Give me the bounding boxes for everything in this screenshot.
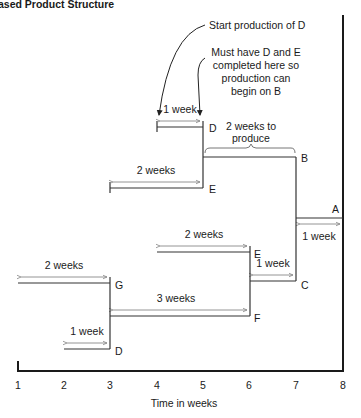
tick-3: 3	[107, 379, 113, 391]
tick-6: 6	[246, 379, 252, 391]
duration-d-top: 1 week	[163, 103, 197, 115]
label-c: C	[301, 279, 309, 291]
duration-a: 1 week	[302, 230, 336, 242]
label-d-bottom: D	[115, 345, 123, 357]
annotation-start-d: Start production of D	[209, 19, 306, 31]
annotation-produce: produce	[232, 132, 270, 144]
tick-5: 5	[200, 379, 206, 391]
time-phased-product-structure-diagram: ased Product Structure 1 2 3 4 5 6 7 8 T…	[0, 0, 361, 418]
label-e-mid: E	[254, 248, 261, 260]
duration-f: 3 weeks	[157, 292, 196, 304]
label-d-top: D	[209, 122, 217, 134]
page-title: ased Product Structure	[0, 0, 114, 10]
label-b: B	[301, 152, 308, 164]
arrow-must-have	[198, 58, 205, 115]
label-g: G	[115, 279, 123, 291]
brace-b	[205, 144, 295, 153]
label-a: A	[332, 203, 339, 215]
tick-4: 4	[154, 379, 160, 391]
label-e-top: E	[209, 183, 216, 195]
duration-g: 2 weeks	[45, 259, 84, 271]
axis-tick-labels: 1 2 3 4 5 6 7 8	[15, 379, 346, 391]
annotation-line-2: completed here so	[213, 59, 300, 71]
tick-2: 2	[61, 379, 67, 391]
tick-8: 8	[340, 379, 346, 391]
annotation-2-weeks-to: 2 weeks to	[226, 120, 276, 132]
x-axis-label: Time in weeks	[151, 397, 218, 409]
duration-d-bottom: 1 week	[70, 325, 104, 337]
annotation-must-have: Must have D and E completed here so prod…	[211, 46, 300, 97]
tick-7: 7	[293, 379, 299, 391]
label-f: F	[254, 312, 260, 324]
duration-e-mid: 2 weeks	[185, 228, 224, 240]
duration-c: 1 week	[256, 257, 290, 269]
tick-1: 1	[15, 379, 21, 391]
annotation-line-1: Must have D and E	[211, 46, 300, 58]
duration-e-top: 2 weeks	[137, 164, 176, 176]
annotation-line-4: begin on B	[231, 85, 281, 97]
annotation-line-3: production can	[222, 72, 291, 84]
